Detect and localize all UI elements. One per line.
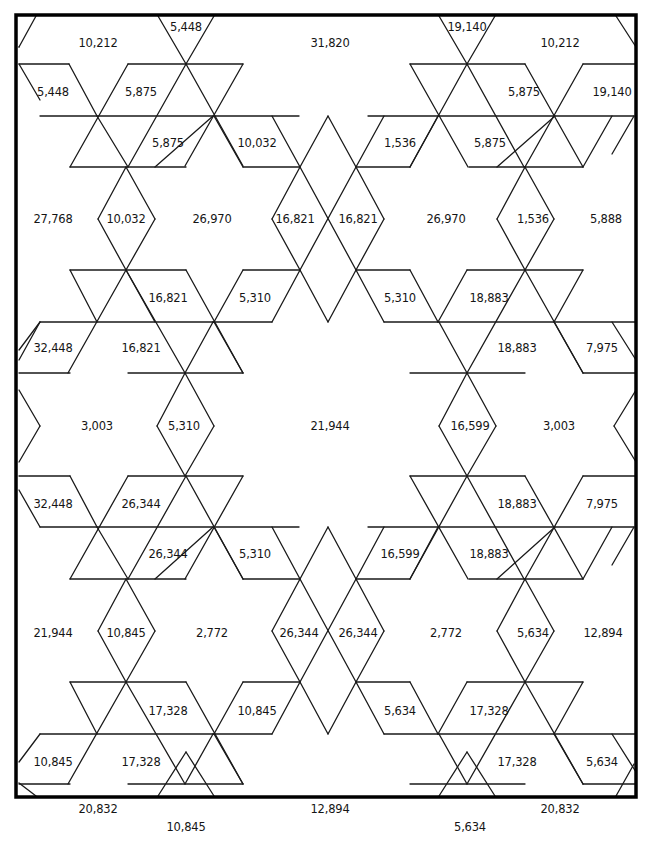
region-label: 3,003: [543, 419, 575, 433]
region-label: 5,888: [590, 212, 622, 226]
region-label: 2,772: [196, 626, 228, 640]
region-label: 5,875: [474, 136, 506, 150]
frame-border: [16, 15, 636, 797]
region-label: 5,634: [586, 755, 618, 769]
region-label: 26,344: [279, 626, 318, 640]
region-label: 26,344: [338, 626, 377, 640]
region-label: 18,883: [469, 547, 508, 561]
region-label: 10,845: [33, 755, 72, 769]
region-label: 16,599: [380, 547, 419, 561]
region-label: 10,212: [540, 36, 579, 50]
region-label: 5,310: [168, 419, 200, 433]
region-label: 26,970: [426, 212, 465, 226]
region-label: 16,821: [338, 212, 377, 226]
region-label: 3,003: [81, 419, 113, 433]
region-label: 5,875: [508, 85, 540, 99]
region-label: 18,883: [469, 291, 508, 305]
region-label: 10,845: [166, 820, 205, 834]
region-label: 2,772: [430, 626, 462, 640]
region-label: 18,883: [497, 497, 536, 511]
region-label: 10,032: [106, 212, 145, 226]
region-label: 5,448: [37, 85, 69, 99]
region-label: 5,634: [517, 626, 549, 640]
region-label: 5,634: [454, 820, 486, 834]
region-label: 1,536: [517, 212, 549, 226]
region-label: 20,832: [540, 802, 579, 816]
region-label: 10,032: [237, 136, 276, 150]
region-label: 5,310: [239, 291, 271, 305]
region-label: 12,894: [310, 802, 349, 816]
region-label: 1,536: [384, 136, 416, 150]
region-label: 21,944: [33, 626, 72, 640]
region-label: 12,894: [583, 626, 622, 640]
region-label: 10,845: [237, 704, 276, 718]
region-label: 26,344: [148, 547, 187, 561]
region-label: 17,328: [469, 704, 508, 718]
region-label: 17,328: [497, 755, 536, 769]
region-label: 27,768: [33, 212, 72, 226]
region-label: 20,832: [78, 802, 117, 816]
region-label: 5,310: [239, 547, 271, 561]
region-label: 5,875: [152, 136, 184, 150]
region-label: 16,821: [275, 212, 314, 226]
region-label: 31,820: [310, 36, 349, 50]
region-label: 16,821: [121, 341, 160, 355]
region-label: 16,821: [148, 291, 187, 305]
region-label: 32,448: [33, 497, 72, 511]
region-label: 7,975: [586, 341, 618, 355]
region-label: 10,212: [78, 36, 117, 50]
region-label: 5,634: [384, 704, 416, 718]
region-label: 18,883: [497, 341, 536, 355]
region-label: 16,599: [450, 419, 489, 433]
region-label: 19,140: [592, 85, 631, 99]
region-label: 5,448: [170, 20, 202, 34]
region-label: 26,344: [121, 497, 160, 511]
region-label: 10,845: [106, 626, 145, 640]
region-label: 5,310: [384, 291, 416, 305]
region-label: 26,970: [192, 212, 231, 226]
region-label: 5,875: [125, 85, 157, 99]
region-label: 19,140: [447, 20, 486, 34]
region-label: 21,944: [310, 419, 349, 433]
region-label: 7,975: [586, 497, 618, 511]
region-label: 17,328: [121, 755, 160, 769]
region-label: 17,328: [148, 704, 187, 718]
lattice-puzzle: 10,2125,44831,82019,14010,2125,4485,8755…: [0, 0, 652, 848]
region-label: 32,448: [33, 341, 72, 355]
